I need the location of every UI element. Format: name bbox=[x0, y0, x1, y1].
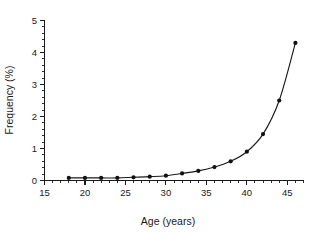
data-point bbox=[164, 174, 168, 178]
y-axis-title: Frequency (%) bbox=[3, 66, 15, 135]
data-point bbox=[131, 175, 135, 179]
data-point bbox=[293, 41, 297, 45]
data-point bbox=[277, 98, 281, 102]
y-tick-label: 5 bbox=[32, 15, 37, 26]
data-point bbox=[180, 171, 184, 175]
data-point bbox=[115, 176, 119, 180]
data-point bbox=[245, 150, 249, 154]
x-tick-label: 45 bbox=[282, 187, 293, 198]
data-point bbox=[229, 159, 233, 163]
x-tick-label: 20 bbox=[80, 187, 91, 198]
y-tick-label: 3 bbox=[32, 79, 37, 90]
data-point bbox=[83, 176, 87, 180]
chart-figure: 012345 15202530354045 Frequency (%) Age … bbox=[0, 0, 316, 237]
y-tick-label: 1 bbox=[32, 143, 37, 154]
data-point bbox=[212, 165, 216, 169]
x-tick-label: 40 bbox=[242, 187, 253, 198]
data-point bbox=[99, 176, 103, 180]
y-tick-label: 2 bbox=[32, 111, 37, 122]
x-axis-title: Age (years) bbox=[141, 215, 195, 227]
y-tick-label: 4 bbox=[32, 47, 37, 58]
x-tick-label: 30 bbox=[161, 187, 172, 198]
frequency-by-age-line-chart: 012345 15202530354045 Frequency (%) Age … bbox=[0, 0, 316, 237]
y-tick-label: 0 bbox=[32, 175, 37, 186]
chart-background bbox=[0, 0, 316, 237]
data-point bbox=[67, 176, 71, 180]
x-tick-label: 35 bbox=[201, 187, 212, 198]
data-point bbox=[261, 132, 265, 136]
x-tick-label: 15 bbox=[39, 187, 50, 198]
data-point bbox=[148, 175, 152, 179]
data-point bbox=[196, 169, 200, 173]
x-tick-label: 25 bbox=[120, 187, 131, 198]
